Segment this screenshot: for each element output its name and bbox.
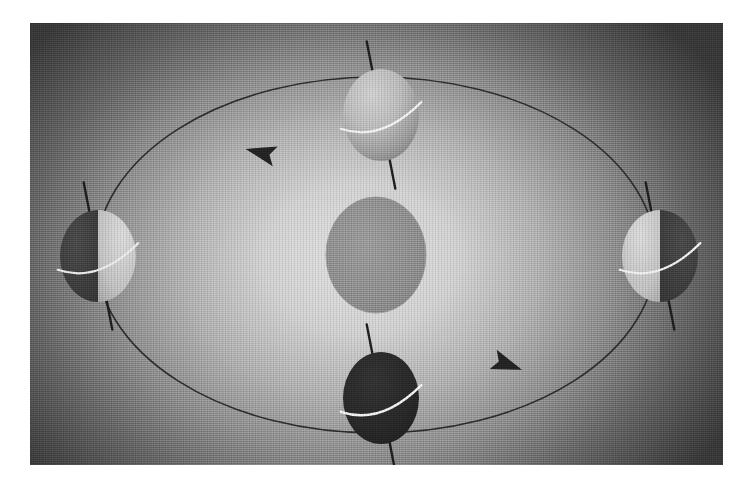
sun-disk (326, 197, 426, 313)
sun (326, 197, 426, 313)
figure-root (0, 0, 748, 488)
seasons-diagram-panel (30, 23, 723, 465)
seasons-diagram-svg (30, 23, 723, 465)
